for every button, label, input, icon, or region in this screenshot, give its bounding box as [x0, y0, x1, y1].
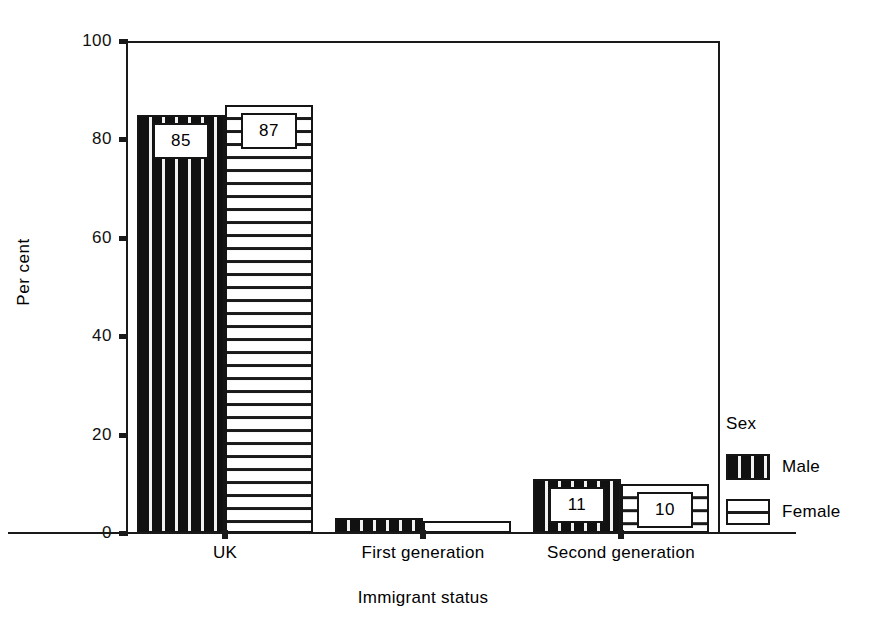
legend-swatch-male-icon — [726, 454, 770, 480]
y-axis-tick-label: 80 — [42, 130, 112, 147]
bar-value-label: 11 — [549, 487, 605, 523]
y-axis-tick-label: 100 — [42, 32, 112, 49]
bar-male — [335, 518, 423, 533]
legend-swatch-female-icon — [726, 499, 770, 525]
legend-label-male: Male — [782, 457, 820, 477]
y-axis-tick — [119, 334, 128, 339]
bar-male — [137, 115, 225, 533]
x-axis-line — [8, 532, 796, 534]
legend-item-female: Female — [726, 499, 866, 525]
bar-value-label: 85 — [153, 123, 209, 159]
x-axis-tick — [222, 530, 228, 539]
y-axis-tick — [119, 433, 128, 438]
y-axis-tick — [119, 137, 128, 142]
bar-female — [225, 105, 313, 533]
x-axis-tick — [618, 530, 624, 539]
y-axis-tick — [119, 236, 128, 241]
y-axis-tick-label: 60 — [42, 229, 112, 246]
legend-item-male: Male — [726, 454, 866, 480]
y-axis-tick-label: 40 — [42, 327, 112, 344]
y-axis-tick — [119, 39, 128, 44]
bar-value-label: 10 — [637, 492, 693, 528]
legend-label-female: Female — [782, 502, 841, 522]
x-axis-title: Immigrant status — [126, 588, 720, 608]
y-axis-tick-label: 20 — [42, 426, 112, 443]
bar-value-label: 87 — [241, 113, 297, 149]
x-axis-tick — [420, 530, 426, 539]
y-axis-title: Per cent — [14, 212, 34, 332]
legend: Sex Male Female — [726, 414, 866, 544]
x-axis-category-label: Second generation — [501, 543, 741, 563]
legend-title: Sex — [726, 414, 866, 434]
bar-chart: Per cent 020406080100 85871110 UKFirst g… — [0, 0, 874, 636]
